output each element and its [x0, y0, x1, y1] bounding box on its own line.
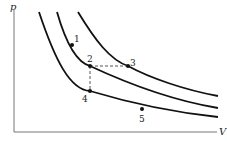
point-label-3: 3 — [130, 58, 136, 68]
point-4 — [88, 89, 92, 93]
point-label-5: 5 — [139, 114, 145, 124]
point-label-1: 1 — [74, 34, 80, 44]
pv-diagram: p V 12345 — [0, 0, 227, 141]
isotherm-high — [78, 12, 218, 96]
state-points: 12345 — [70, 34, 145, 124]
point-2 — [88, 64, 92, 68]
dashed-guides — [90, 66, 128, 91]
point-label-4: 4 — [82, 94, 88, 104]
p-axis-label: p — [10, 1, 17, 12]
point-label-2: 2 — [87, 54, 93, 64]
v-axis-label: V — [219, 126, 227, 137]
point-5 — [140, 107, 144, 111]
